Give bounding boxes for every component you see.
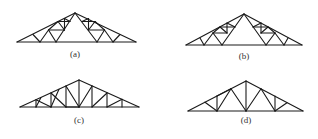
truss-member [220, 27, 227, 33]
truss-member [97, 30, 105, 42]
truss-member [107, 99, 122, 107]
truss-member [244, 14, 266, 45]
truss-member [244, 14, 302, 45]
truss-member [200, 38, 204, 45]
truss-member [222, 14, 244, 45]
truss-member [75, 13, 136, 42]
label-a: (a) [70, 50, 80, 59]
truss-a [17, 13, 136, 42]
truss-member [284, 38, 288, 45]
truss-figure [0, 0, 318, 139]
truss-member [105, 30, 114, 42]
truss-member [227, 23, 235, 27]
truss-member [275, 103, 287, 111]
label-c: (c) [74, 116, 84, 125]
label-d: (d) [241, 116, 252, 125]
truss-member [40, 30, 49, 42]
truss-member [17, 13, 75, 42]
truss-member [253, 23, 261, 27]
truss-member [49, 30, 57, 42]
truss-member [186, 14, 244, 45]
truss-b [186, 14, 302, 45]
truss-member [89, 22, 96, 31]
truss-member [205, 102, 217, 111]
truss-member [113, 35, 120, 43]
truss-member [75, 13, 97, 42]
truss-member [66, 86, 79, 107]
truss-member [261, 27, 268, 33]
label-b: (b) [239, 52, 250, 61]
truss-member [79, 86, 92, 107]
truss-member [231, 89, 246, 111]
truss-member [33, 35, 40, 43]
truss-member [213, 33, 222, 45]
truss-member [58, 22, 65, 31]
truss-member [92, 93, 107, 107]
truss-member [246, 89, 261, 111]
truss-c [20, 80, 139, 107]
truss-d [188, 81, 303, 111]
truss-member [51, 93, 66, 107]
truss-member [266, 33, 275, 45]
